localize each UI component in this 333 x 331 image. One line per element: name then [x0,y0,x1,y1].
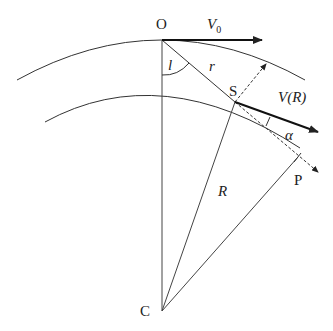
point-S-label: S [229,84,237,99]
angle-l-label: l [168,58,172,73]
line-OS [162,40,235,102]
inner-orbit-arc [45,95,300,148]
outer-orbit-arc [17,40,305,80]
dashed-line-SP [235,102,318,172]
geometry-figure [0,0,333,331]
dashed-radial-arrow [235,64,266,102]
R-label: R [218,184,227,199]
alpha-tick [266,117,270,126]
v0-subscript: 0 [216,24,221,35]
line-SC [162,102,235,311]
diagram: O V0 l r S V(R) α P R C [0,0,333,331]
line-CP [162,157,298,311]
point-C-label: C [140,304,150,319]
v0-label: V0 [207,17,221,35]
v0-letter: V [207,16,216,32]
alpha-label: α [285,128,293,143]
point-P-label: P [294,173,302,188]
r-label: r [209,59,215,74]
angle-l-arc [162,63,189,75]
vr-arrow [235,102,318,132]
point-O-label: O [156,17,167,32]
vr-label: V(R) [278,90,306,105]
